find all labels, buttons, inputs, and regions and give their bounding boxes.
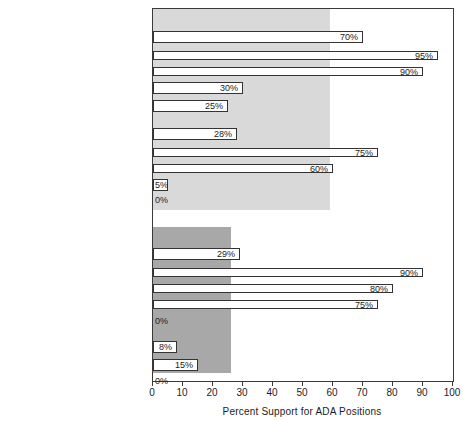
ada-support-bar-chart: ALL DEMOCRATS (59%)NORTHERN70%Kennedy (M… [0, 0, 475, 421]
chart-row-zorinsky: Zorinsky (Neb.)25% [153, 97, 453, 115]
bar-value-brooke-javits: 80% [153, 283, 388, 295]
x-axis: 0102030405060708090100 Percent Support f… [152, 381, 452, 421]
x-tick-100 [452, 381, 453, 386]
chart-row-curtis: Curtis (Neb.) et al.0% [153, 312, 453, 330]
x-tick-30 [242, 381, 243, 386]
bar-value-mathias: 75% [153, 299, 373, 311]
x-tick-40 [272, 381, 273, 386]
bar-value-allen: 0% [155, 194, 168, 206]
x-tick-label-80: 80 [386, 387, 397, 398]
bar-value-rep-southern: 8% [153, 341, 172, 353]
bar-value-dem-southern: 28% [153, 128, 232, 140]
bar-value-rep-northern: 29% [153, 248, 235, 260]
bar-value-curtis: 0% [155, 315, 168, 327]
x-tick-label-10: 10 [176, 387, 187, 398]
x-tick-label-90: 90 [416, 387, 427, 398]
bar-value-baker-tower: 15% [153, 359, 193, 371]
chart-row-allen: Allen (Ala.)0% [153, 191, 453, 209]
x-axis-title: Percent Support for ADA Positions [152, 406, 452, 417]
x-tick-10 [182, 381, 183, 386]
x-tick-20 [212, 381, 213, 386]
x-tick-60 [332, 381, 333, 386]
chart-row-dem-northern: NORTHERN70% [153, 28, 453, 46]
x-tick-label-70: 70 [356, 387, 367, 398]
bar-value-zorinsky: 25% [153, 100, 223, 112]
x-tick-label-30: 30 [236, 387, 247, 398]
x-tick-label-60: 60 [326, 387, 337, 398]
x-tick-label-0: 0 [149, 387, 155, 398]
plot-area: ALL DEMOCRATS (59%)NORTHERN70%Kennedy (M… [152, 8, 454, 382]
x-tick-80 [392, 381, 393, 386]
bar-value-cannon: 30% [153, 82, 238, 94]
chart-row-dem-southern: SOUTHERN28% [153, 125, 453, 143]
x-tick-label-50: 50 [296, 387, 307, 398]
bar-value-stennis: 5% [155, 179, 168, 191]
x-tick-label-20: 20 [206, 387, 217, 398]
bar-value-kennedy: 95% [153, 50, 433, 62]
bar-value-case: 90% [153, 267, 418, 279]
bar-value-clark: 90% [153, 66, 418, 78]
bar-value-dem-northern: 70% [153, 31, 358, 43]
bar-value-sasser: 60% [153, 163, 328, 175]
x-tick-0 [152, 381, 153, 386]
x-tick-50 [302, 381, 303, 386]
chart-row-cannon: Cannon (Nev.)30% [153, 79, 453, 97]
bar-value-bumpers: 75% [153, 147, 373, 159]
chart-row-all-democrats: ALL DEMOCRATS (59%) [153, 9, 453, 27]
x-tick-90 [422, 381, 423, 386]
chart-row-rep-northern: NORTHERN29% [153, 245, 453, 263]
x-tick-70 [362, 381, 363, 386]
chart-row-rep-southern: SOUTHERN8% [153, 338, 453, 356]
x-tick-label-40: 40 [266, 387, 277, 398]
x-tick-label-100: 100 [444, 387, 461, 398]
